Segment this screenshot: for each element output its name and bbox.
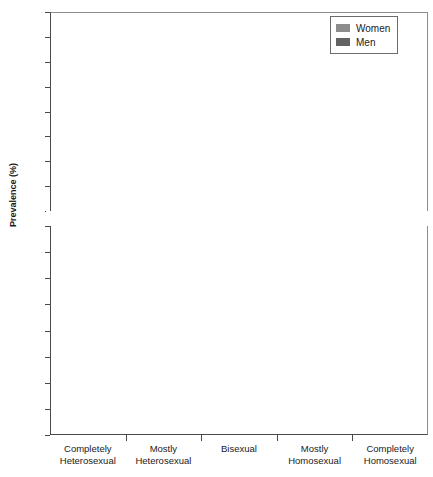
x-category-label-line: Heterosexual [126,455,202,467]
tick-mark [45,226,50,227]
tick-mark [45,37,50,38]
x-category-label-2: Bisexual [201,443,277,455]
x-tick [201,435,202,441]
tick-mark [45,278,50,279]
tick-mark [45,357,50,358]
legend-label-women: Women [356,23,390,34]
tick-mark [45,161,50,162]
x-category-label-line: Mostly [126,443,202,455]
x-category-label-line: Completely [352,443,428,455]
tick-mark [45,112,50,113]
x-category-label-3: MostlyHomosexual [277,443,353,467]
tick-mark [45,12,50,13]
axis-break-band [46,211,430,226]
legend-swatch-women-icon [336,24,350,32]
x-category-label-0: CompletelyHeterosexual [50,443,126,467]
x-tick [352,435,353,441]
legend-item-men: Men [336,35,390,49]
tick-mark [45,136,50,137]
legend-label-men: Men [356,37,375,48]
tick-mark [45,304,50,305]
legend-swatch-men-icon [336,38,350,46]
x-category-label-line: Homosexual [352,455,428,467]
tick-mark [45,186,50,187]
tick-mark [45,62,50,63]
x-tick [277,435,278,441]
tick-mark [45,87,50,88]
x-category-label-line: Completely [50,443,126,455]
x-category-label-4: CompletelyHomosexual [352,443,428,467]
tick-mark [45,331,50,332]
legend-item-women: Women [336,21,390,35]
x-category-label-line: Mostly [277,443,353,455]
x-tick [126,435,127,441]
tick-mark [45,409,50,410]
x-category-label-line: Heterosexual [50,455,126,467]
tick-mark [45,252,50,253]
prevalence-bar-chart: Prevalence (%) 8486889092949698100024681… [0,0,433,477]
x-category-label-line: Homosexual [277,455,353,467]
y-axis-title: Prevalence (%) [8,135,18,255]
x-category-label-line: Bisexual [201,443,277,455]
tick-mark [45,435,50,436]
legend: Women Men [330,16,398,54]
x-category-label-1: MostlyHeterosexual [126,443,202,467]
tick-mark [45,383,50,384]
